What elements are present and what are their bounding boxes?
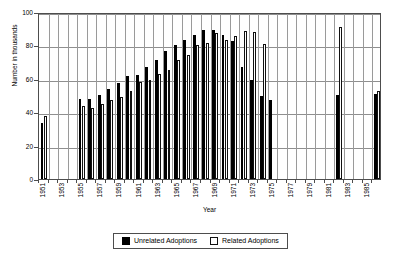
y-axis-tick-label: 40 <box>26 110 33 117</box>
bar-related-adoptions-1965 <box>177 60 180 179</box>
bar-related-adoptions-1968 <box>206 43 209 179</box>
legend-label: Related Adoptions <box>222 237 279 245</box>
bar-related-adoptions-1966 <box>187 55 190 179</box>
x-axis-tick-mark <box>219 180 220 183</box>
x-axis-tick-label: 1967 <box>192 183 199 197</box>
filled-square-icon <box>122 237 130 245</box>
bar-related-adoptions-1958 <box>110 100 113 179</box>
x-axis-tick-label: 1981 <box>325 183 332 197</box>
bar-related-adoptions-1982 <box>339 27 342 179</box>
x-axis-tick-mark <box>333 180 334 183</box>
y-axis: 020406080100 <box>0 13 38 180</box>
x-axis-tick-mark <box>171 180 172 183</box>
bar-related-adoptions-1959 <box>120 97 123 179</box>
bar-unrelated-adoptions-1975 <box>269 100 272 179</box>
y-axis-tick-label: 0 <box>29 177 33 184</box>
bar-related-adoptions-1955 <box>82 106 85 179</box>
y-axis-tick-label: 20 <box>26 143 33 150</box>
legend-item: Related Adoptions <box>210 237 279 245</box>
x-axis-tick-label: 1951 <box>39 183 46 197</box>
bar-related-adoptions-1961 <box>139 82 142 179</box>
x-axis-tick-mark <box>105 180 106 183</box>
x-axis-tick-mark <box>67 180 68 183</box>
x-axis-tick-mark <box>371 180 372 183</box>
x-axis-tick-label: 1963 <box>154 183 161 197</box>
x-axis-tick-mark <box>86 180 87 183</box>
bar-related-adoptions-1957 <box>101 104 104 179</box>
chart-legend: Unrelated AdoptionsRelated Adoptions <box>113 233 288 249</box>
x-axis-tick-label: 1955 <box>77 183 84 197</box>
bar-related-adoptions-1962 <box>149 80 152 179</box>
bar-related-adoptions-1970 <box>225 40 228 179</box>
x-axis-tick-label: 1983 <box>344 183 351 197</box>
x-axis-tick-mark <box>200 180 201 183</box>
bar-related-adoptions-1960 <box>130 91 133 179</box>
x-axis-tick-label: 1985 <box>363 183 370 197</box>
x-axis-tick-label: 1977 <box>287 183 294 197</box>
bar-related-adoptions-1973 <box>253 32 256 179</box>
y-axis-tick-label: 80 <box>26 43 33 50</box>
x-axis-tick-label: 1953 <box>58 183 65 197</box>
bar-related-adoptions-1964 <box>168 70 171 179</box>
x-axis-tick-label: 1975 <box>268 183 275 197</box>
x-axis-title: Year <box>38 206 381 213</box>
bar-related-adoptions-1963 <box>158 74 161 179</box>
bar-related-adoptions-1974 <box>263 44 266 179</box>
hollow-square-icon <box>210 237 218 245</box>
bar-related-adoptions-1967 <box>196 45 199 179</box>
y-axis-title: Number in thousands <box>11 1 18 111</box>
x-axis-tick-label: 1979 <box>306 183 313 197</box>
x-axis-tick-mark <box>257 180 258 183</box>
x-axis-tick-mark <box>133 180 134 183</box>
x-axis-tick-label: 1961 <box>135 183 142 197</box>
x-axis-tick-mark <box>162 180 163 183</box>
x-axis-tick-mark <box>314 180 315 183</box>
x-axis-tick-label: 1957 <box>96 183 103 197</box>
x-axis-tick-label: 1959 <box>115 183 122 197</box>
bar-related-adoptions-1972 <box>244 31 247 179</box>
bar-related-adoptions-1969 <box>215 33 218 179</box>
plot-area <box>38 13 381 180</box>
y-axis-tick-label: 100 <box>22 10 33 17</box>
x-axis-tick-mark <box>124 180 125 183</box>
chart-container: 020406080100 Number in thousands 1951195… <box>0 0 414 261</box>
x-axis-tick-mark <box>352 180 353 183</box>
bar-related-adoptions-1951 <box>44 116 47 179</box>
x-axis-tick-mark <box>190 180 191 183</box>
bar-related-adoptions-1956 <box>91 108 94 179</box>
y-axis-tick-label: 60 <box>26 77 33 84</box>
x-axis-tick-label: 1969 <box>211 183 218 197</box>
bar-series-group <box>39 14 380 179</box>
x-axis-tick-mark <box>181 180 182 183</box>
legend-item: Unrelated Adoptions <box>122 237 197 245</box>
x-axis-tick-mark <box>152 180 153 183</box>
x-axis-tick-mark <box>238 180 239 183</box>
x-axis-tick-mark <box>48 180 49 183</box>
legend-label: Unrelated Adoptions <box>134 237 197 245</box>
x-axis-tick-mark <box>295 180 296 183</box>
bar-related-adoptions-1971 <box>234 36 237 179</box>
x-axis-tick-label: 1973 <box>249 183 256 197</box>
x-axis-tick-mark <box>143 180 144 183</box>
x-axis-tick-label: 1971 <box>230 183 237 197</box>
bar-related-adoptions-1986 <box>377 91 380 180</box>
x-axis-tick-label: 1965 <box>173 183 180 197</box>
x-axis-tick-mark <box>276 180 277 183</box>
